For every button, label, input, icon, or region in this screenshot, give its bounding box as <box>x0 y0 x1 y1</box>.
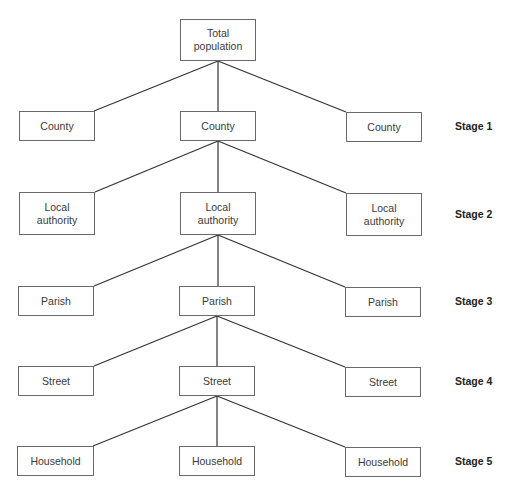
stage2-node-left: Local authority <box>19 192 95 235</box>
connector-line <box>94 235 218 286</box>
connector-line <box>93 396 217 446</box>
stage-label-5: Stage 5 <box>455 455 492 467</box>
root-node-total-population: Total population <box>180 19 256 61</box>
stage5-node-left: Household <box>17 446 94 476</box>
stage-label-2: Stage 2 <box>455 208 492 220</box>
connector-line <box>217 316 345 367</box>
stage4-node-left: Street <box>18 366 94 396</box>
connector-line <box>94 61 218 111</box>
stage-label-1: Stage 1 <box>455 120 492 132</box>
stage2-node-center: Local authority <box>180 192 256 235</box>
connector-line <box>218 141 346 193</box>
tree-connectors <box>0 0 511 497</box>
stage5-node-center: Household <box>179 446 255 476</box>
connector-line <box>95 141 218 192</box>
stage-label-3: Stage 3 <box>455 295 492 307</box>
stage5-node-right: Household <box>345 447 421 477</box>
stage2-node-right: Local authority <box>346 193 422 236</box>
stage3-node-center: Parish <box>179 286 255 316</box>
stage-label-4: Stage 4 <box>455 375 492 387</box>
stage3-node-right: Parish <box>345 287 421 317</box>
stage1-node-left: County <box>19 111 95 141</box>
connector-line <box>218 61 346 112</box>
connector-line <box>218 235 345 287</box>
stage1-node-right: County <box>346 112 422 142</box>
multistage-sampling-diagram: Total population County County County St… <box>0 0 511 497</box>
connector-line <box>94 316 217 366</box>
stage1-node-center: County <box>180 111 256 141</box>
stage3-node-left: Parish <box>18 286 94 316</box>
stage4-node-right: Street <box>345 367 421 397</box>
connector-line <box>217 396 345 447</box>
stage4-node-center: Street <box>179 366 255 396</box>
